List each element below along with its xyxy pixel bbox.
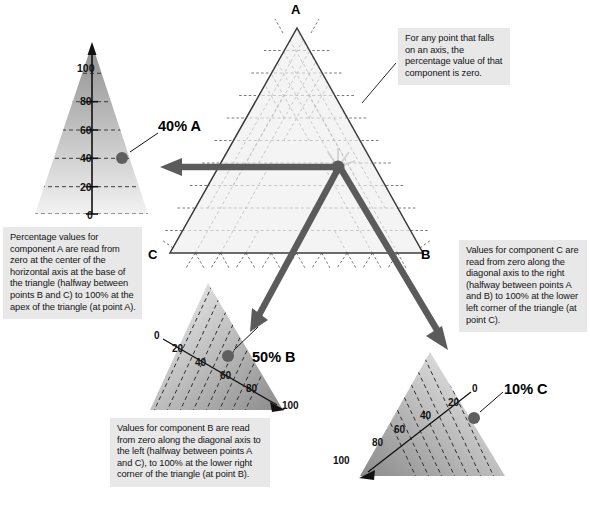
b-tick-100: 100 <box>282 400 299 411</box>
main-corner-label-a: A <box>291 2 300 17</box>
main-triangle-fill <box>170 28 423 253</box>
caption-top-right: For any point that falls on an axis, the… <box>398 28 510 85</box>
main-corner-label-c: C <box>148 247 157 262</box>
c-tick-0: 0 <box>472 383 478 394</box>
callout-50-percent-b: 50% B <box>252 349 296 365</box>
component-a-sample-point[interactable] <box>116 152 128 164</box>
component-c-sample-point[interactable] <box>468 412 480 424</box>
main-corner-label-b: B <box>421 247 430 262</box>
callout-10-percent-c: 10% C <box>504 381 548 397</box>
top-right-caption-leader <box>362 63 396 103</box>
main-triangle-group <box>162 19 431 268</box>
a-tick-0: 0 <box>87 209 93 221</box>
callout-40-percent-a: 40% A <box>158 118 201 134</box>
a-tick-20: 20 <box>80 181 92 193</box>
arrow-to-a-head <box>160 158 182 176</box>
caption-component-c: Values for component C are read from zer… <box>459 240 587 332</box>
c-tick-100: 100 <box>333 455 350 466</box>
main-sample-point[interactable] <box>332 161 345 174</box>
a-tick-40: 40 <box>80 152 92 164</box>
b-tick-20: 20 <box>172 343 183 354</box>
caption-component-b: Values for component B are read from zer… <box>110 418 270 487</box>
b-tick-60: 60 <box>220 370 231 381</box>
caption-component-a: Percentage values for component A are re… <box>3 227 142 319</box>
b-tick-40: 40 <box>195 357 206 368</box>
a-tick-60: 60 <box>80 124 92 136</box>
component-b-triangle-group <box>140 275 308 413</box>
component-c-leader-line <box>480 392 503 412</box>
component-a-axis-arrowhead <box>88 42 97 55</box>
a-tick-100: 100 <box>77 62 95 74</box>
c-tick-20: 20 <box>448 397 459 408</box>
b-tick-0: 0 <box>154 330 160 341</box>
arrow-to-c-head <box>426 326 448 350</box>
component-a-leader-line <box>130 133 158 152</box>
b-tick-80: 80 <box>246 383 257 394</box>
component-b-sample-point[interactable] <box>222 350 234 362</box>
figure-canvas: A C B 40% A 50% B 10% C 100 80 60 40 20 … <box>0 0 590 509</box>
c-tick-60: 60 <box>394 424 405 435</box>
component-c-triangle-group <box>353 344 521 480</box>
c-tick-80: 80 <box>372 437 383 448</box>
a-tick-80: 80 <box>80 95 92 107</box>
c-tick-40: 40 <box>420 410 431 421</box>
